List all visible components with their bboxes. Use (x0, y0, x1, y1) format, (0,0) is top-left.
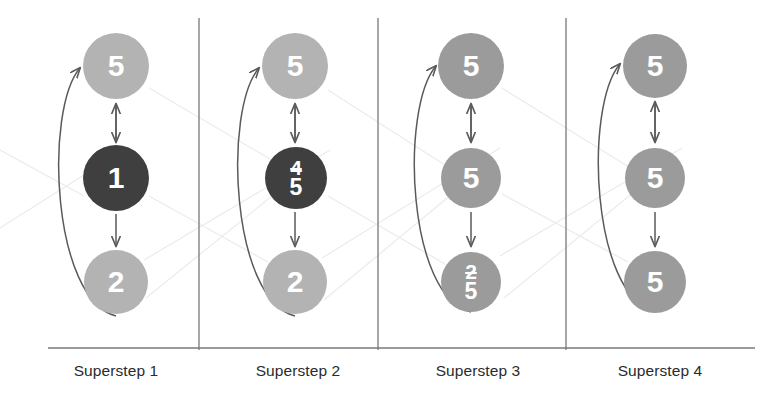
node-value: 5 (647, 51, 664, 81)
node-superstep-1-top[interactable]: 5 (83, 33, 149, 99)
step-label-superstep-1: Superstep 1 (21, 362, 211, 380)
node-value-stack: 4 5 (290, 158, 303, 198)
node-value: 5 (287, 51, 304, 81)
step-label-superstep-4: Superstep 4 (565, 362, 755, 380)
step-label-superstep-2: Superstep 2 (203, 362, 393, 380)
node-superstep-2-bottom[interactable]: 2 (263, 250, 327, 314)
node-value: 2 (108, 267, 125, 297)
node-superstep-3-bottom[interactable]: 2 5 (441, 252, 501, 312)
node-superstep-1-middle[interactable]: 1 (83, 145, 149, 211)
diagram-canvas: 5 1 2 5 4 5 2 5 5 2 5 5 5 5 Super (0, 0, 781, 410)
node-superstep-4-bottom[interactable]: 5 (624, 251, 686, 313)
column-dividers (199, 18, 566, 350)
node-new-value: 5 (290, 177, 303, 198)
node-value: 5 (108, 51, 125, 81)
node-value-stack: 2 5 (465, 262, 478, 302)
node-value: 5 (463, 163, 480, 193)
node-superstep-2-top[interactable]: 5 (262, 33, 328, 99)
step-label-superstep-3: Superstep 3 (383, 362, 573, 380)
node-value: 5 (463, 51, 480, 81)
node-value: 2 (287, 267, 304, 297)
node-superstep-1-bottom[interactable]: 2 (84, 250, 148, 314)
node-value: 5 (647, 267, 664, 297)
node-superstep-2-middle[interactable]: 4 5 (265, 147, 327, 209)
node-superstep-4-middle[interactable]: 5 (625, 148, 685, 208)
node-superstep-3-top[interactable]: 5 (438, 33, 504, 99)
node-value: 5 (647, 163, 664, 193)
node-new-value: 5 (465, 281, 478, 302)
node-superstep-4-top[interactable]: 5 (623, 34, 687, 98)
node-value: 1 (108, 163, 125, 193)
node-superstep-3-middle[interactable]: 5 (441, 148, 501, 208)
